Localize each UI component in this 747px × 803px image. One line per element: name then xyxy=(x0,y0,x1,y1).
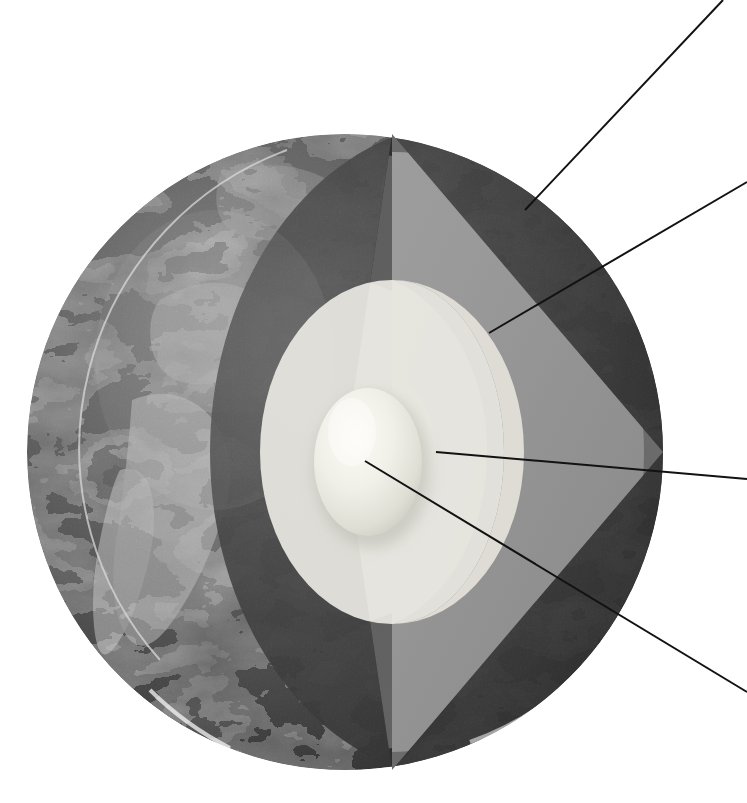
diagram-canvas xyxy=(0,0,747,803)
inner-core-highlight xyxy=(328,398,376,466)
earth-cutaway-svg xyxy=(0,0,747,803)
